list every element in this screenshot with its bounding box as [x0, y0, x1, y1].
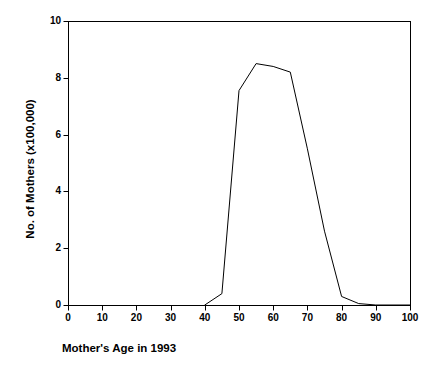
x-tick-label: 90 [370, 313, 381, 323]
x-tick-label: 60 [268, 313, 279, 323]
x-tick-label: 50 [233, 313, 244, 323]
x-tick-label: 80 [336, 313, 347, 323]
axes-frame [69, 22, 411, 306]
x-tick-label: 30 [165, 313, 176, 323]
x-tick-label: 0 [65, 313, 71, 323]
chart-figure: 0102030405060708090100 0246810 No. of Mo… [0, 0, 438, 376]
y-axis-tickmarks [64, 22, 69, 306]
x-tick-label: 20 [131, 313, 142, 323]
x-tick-label: 70 [302, 313, 313, 323]
x-tick-label: 100 [402, 313, 419, 323]
y-axis-label: No. of Mothers (x100,000) [24, 69, 36, 269]
x-axis-tickmarks [69, 306, 411, 311]
x-axis-label: Mother's Age in 1993 [62, 342, 176, 354]
y-tick-label: 8 [38, 73, 61, 83]
x-tick-label: 10 [97, 313, 108, 323]
y-tick-label: 2 [38, 243, 61, 253]
y-tick-label: 6 [38, 130, 61, 140]
y-tick-label: 0 [38, 300, 61, 310]
data-series-line [205, 64, 410, 305]
y-tick-label: 4 [38, 186, 61, 196]
x-tick-label: 40 [199, 313, 210, 323]
y-tick-label: 10 [38, 16, 61, 26]
